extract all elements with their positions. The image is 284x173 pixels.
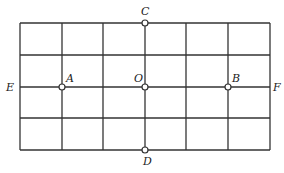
point-a-marker <box>59 84 65 90</box>
point-o-label: O <box>134 72 143 85</box>
point-a-label: A <box>65 72 74 85</box>
point-d-marker <box>142 147 148 153</box>
point-b-label: B <box>231 72 240 85</box>
grid-diagram: AOBCD EF <box>0 0 284 173</box>
point-c-label: C <box>141 5 150 18</box>
point-d-label: D <box>142 155 152 168</box>
point-b-marker <box>225 84 231 90</box>
line-label-f: F <box>272 81 281 94</box>
line-label-e: E <box>5 81 14 94</box>
point-c-marker <box>142 20 148 26</box>
